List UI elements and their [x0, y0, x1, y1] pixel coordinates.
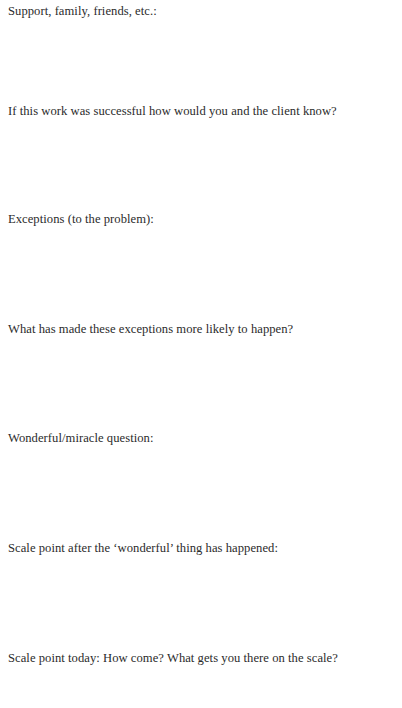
answer-space-success-indicator — [8, 122, 394, 208]
prompt-scale-after: Scale point after the ‘wonderful’ thing … — [8, 540, 278, 556]
answer-space-exception-causes — [8, 340, 394, 427]
prompt-miracle-question: Wonderful/miracle question: — [8, 430, 153, 446]
answer-space-exceptions — [8, 230, 394, 318]
prompt-exception-causes: What has made these exceptions more like… — [8, 321, 293, 337]
prompt-success-indicator: If this work was successful how would yo… — [8, 103, 337, 119]
prompt-support: Support, family, friends, etc.: — [8, 3, 157, 19]
answer-space-scale-after — [8, 559, 394, 647]
prompt-exceptions: Exceptions (to the problem): — [8, 211, 154, 227]
answer-space-support — [8, 22, 394, 100]
prompt-scale-today: Scale point today: How come? What gets y… — [8, 650, 338, 666]
answer-space-miracle-question — [8, 449, 394, 537]
answer-space-scale-today — [8, 669, 394, 705]
